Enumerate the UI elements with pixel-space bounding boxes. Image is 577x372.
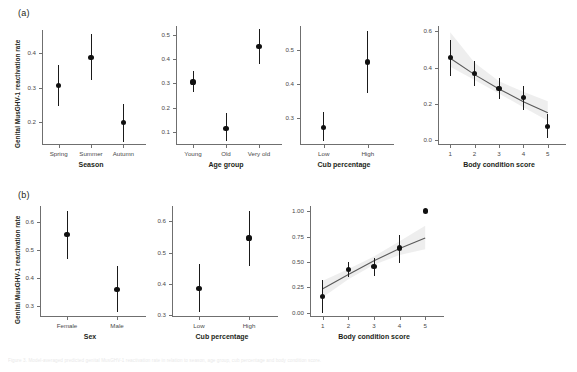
panel-row-b: (b) Genital MusGHV-1 reactivation rate 0… [0,184,577,350]
y-tick-label: 0.4 [408,64,432,71]
x-axis-line [176,144,282,145]
y-tick-label: 0.3 [12,84,36,91]
x-axis-title: Body condition score [324,333,424,340]
y-tick-mark [297,118,300,119]
y-tick-mark [173,108,176,109]
x-tick-mark [67,317,68,320]
x-tick-label: High [224,322,274,329]
y-tick-label: 0.6 [10,218,34,225]
x-tick-mark [323,317,324,320]
x-tick-mark [400,317,401,320]
chart-a-age: 0.10.20.30.40.5YoungOldVery oldAge group [176,0,316,184]
y-tick-label: 0.1 [146,128,170,135]
x-tick-mark [548,145,549,148]
data-point [121,120,126,125]
y-tick-label: 0.4 [12,49,36,56]
x-tick-label: Autumn [98,150,148,157]
y-tick-label: 0.4 [142,280,166,287]
x-tick-label: 5 [523,150,573,157]
x-axis-title: Cub percentage [294,161,394,168]
chart-a-bcs: 0.00.20.40.612345Body condition score [438,0,577,184]
y-tick-mark [37,306,40,307]
x-axis-title: Age group [176,161,276,168]
y-tick-mark [297,50,300,51]
chart-a-season: 0.20.30.4SpringSummerAutumnSeason [42,0,180,184]
data-point [256,44,261,49]
x-tick-mark [475,145,476,148]
data-point [371,264,376,269]
x-tick-label: 5 [400,322,450,329]
data-point [496,86,501,91]
panel-row-a: (a) Genital MusGHV-1 reactivation rate 0… [0,0,577,184]
y-axis-line [300,26,301,144]
figure-caption: Figure 3. Model-averaged predicted genit… [8,358,568,364]
y-tick-label: 1.00 [280,207,304,214]
y-tick-mark [173,83,176,84]
x-axis-title: Sex [40,333,140,340]
x-tick-mark [59,145,60,148]
x-tick-label: Low [299,150,349,157]
data-point [321,125,326,130]
y-tick-mark [173,35,176,36]
data-point [190,79,195,84]
y-tick-label: 0.6 [142,217,166,224]
y-tick-mark [169,253,172,254]
y-axis-line [176,26,177,144]
y-tick-label: 0.25 [280,283,304,290]
y-tick-label: 0.00 [280,309,304,316]
x-tick-mark [259,145,260,148]
x-tick-mark [499,145,500,148]
panel-b-tag: (b) [18,190,30,200]
y-tick-mark [173,59,176,60]
data-point [196,286,201,291]
x-tick-mark [374,317,375,320]
y-tick-label: 0.50 [280,258,304,265]
y-tick-label: 0.5 [270,46,294,53]
y-tick-label: 0.4 [10,274,34,281]
y-tick-label: 0.5 [10,246,34,253]
confidence-band [450,32,548,120]
y-tick-mark [39,88,42,89]
y-tick-mark [173,132,176,133]
y-tick-mark [39,122,42,123]
y-tick-mark [37,222,40,223]
chart-b-bcs: 0.000.250.500.751.0012345Body condition … [310,184,478,350]
x-axis-title: Body condition score [449,161,549,168]
data-point [56,83,61,88]
x-tick-label: Male [92,322,142,329]
data-point [88,55,93,60]
x-tick-label: Very old [234,150,284,157]
y-tick-label: 0.3 [146,79,170,86]
y-tick-label: 0.6 [408,27,432,34]
x-tick-mark [226,145,227,148]
y-tick-label: 0.2 [408,100,432,107]
data-point [64,232,69,237]
x-tick-mark [324,145,325,148]
y-tick-label: 0.5 [146,31,170,38]
x-tick-mark [348,317,349,320]
y-tick-label: 0.4 [146,55,170,62]
y-tick-label: 0.2 [146,104,170,111]
figure-container: (a) Genital MusGHV-1 reactivation rate 0… [0,0,577,372]
y-tick-mark [169,221,172,222]
y-axis-line [40,206,41,316]
x-tick-mark [91,145,92,148]
x-axis-line [42,144,146,145]
data-point [423,208,428,213]
x-axis-line [300,144,394,145]
y-axis-line [42,30,43,144]
x-tick-mark [193,145,194,148]
x-tick-mark [450,145,451,148]
y-tick-label: 0.5 [142,249,166,256]
x-axis-title: Cub percentage [172,333,272,340]
x-tick-mark [117,317,118,320]
y-tick-mark [169,284,172,285]
x-tick-mark [199,317,200,320]
x-tick-mark [123,145,124,148]
y-tick-label: 0.0 [408,136,432,143]
data-point [246,235,251,240]
y-tick-mark [37,250,40,251]
panel-a-tag: (a) [18,8,30,18]
y-tick-mark [169,315,172,316]
x-tick-mark [249,317,250,320]
